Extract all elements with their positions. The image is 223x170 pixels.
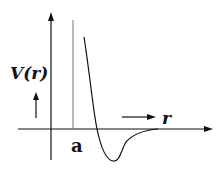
y-axis-label: V(r)	[10, 63, 48, 83]
potential-curve	[84, 37, 158, 161]
marker-label-a: a	[71, 135, 83, 156]
diagram-canvas	[0, 0, 223, 170]
x-axis-arrowhead-icon	[204, 126, 213, 132]
right-arrow-head-icon	[147, 114, 156, 120]
up-arrow-head-icon	[33, 92, 39, 100]
potential-diagram: V(r) r a	[0, 0, 223, 170]
y-axis-arrowhead-icon	[48, 12, 54, 21]
x-axis-label: r	[162, 108, 171, 128]
